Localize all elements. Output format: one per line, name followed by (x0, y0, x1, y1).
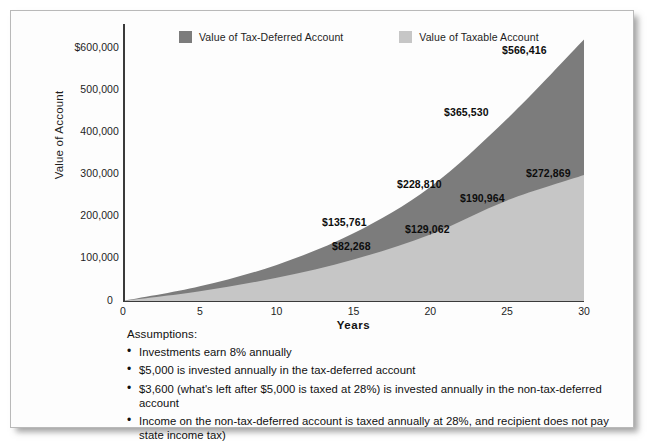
assumption-item: • $5,000 is invested annually in the tax… (127, 363, 627, 377)
x-tick-20: 20 (424, 305, 436, 317)
bullet-icon: • (127, 363, 139, 376)
y-tick-100000: 100,000 (55, 251, 119, 263)
chart-container: Value of Tax-Deferred Account Value of T… (11, 11, 635, 429)
assumption-item: • $3,600 (what's left after $5,000 is ta… (127, 382, 627, 410)
assumption-item: • Investments earn 8% annually (127, 345, 627, 359)
y-axis-line (123, 24, 125, 302)
x-tick-5: 5 (197, 305, 203, 317)
data-label-135761: $135,761 (322, 216, 367, 228)
x-tick-25: 25 (501, 305, 513, 317)
figure-card: Value of Tax-Deferred Account Value of T… (10, 10, 634, 428)
x-tick-15: 15 (348, 305, 360, 317)
data-label-82268: $82,268 (332, 240, 371, 252)
chart-plot-series (123, 24, 584, 301)
data-label-228810: $228,810 (397, 178, 442, 190)
x-tick-0: 0 (120, 305, 126, 317)
bullet-icon: • (127, 345, 139, 358)
assumption-text-1: Investments earn 8% annually (139, 345, 292, 359)
assumption-text-4: Income on the non-tax-deferred account i… (139, 414, 627, 442)
x-axis-line (123, 301, 584, 303)
y-tick-200000: 200,000 (55, 209, 119, 221)
data-label-365530: $365,530 (444, 106, 489, 118)
data-label-190964: $190,964 (460, 192, 505, 204)
bullet-icon: • (127, 414, 139, 427)
assumption-text-3: $3,600 (what's left after $5,000 is taxe… (139, 382, 627, 410)
assumption-item: • Income on the non-tax-deferred account… (127, 414, 627, 442)
data-label-272869: $272,869 (526, 167, 571, 179)
y-axis-title: Value of Account (53, 75, 65, 195)
assumption-text-2: $5,000 is invested annually in the tax-d… (139, 363, 416, 377)
data-label-129062: $129,062 (405, 223, 450, 235)
x-tick-30: 30 (578, 305, 590, 317)
assumptions-block: Assumptions: • Investments earn 8% annua… (127, 328, 627, 442)
x-tick-10: 10 (271, 305, 283, 317)
bullet-icon: • (127, 382, 139, 395)
y-tick-600000: $600,000 (55, 41, 119, 53)
assumptions-title: Assumptions: (127, 328, 627, 340)
y-tick-0: 0 (107, 294, 113, 306)
data-label-566416: $566,416 (502, 44, 547, 56)
